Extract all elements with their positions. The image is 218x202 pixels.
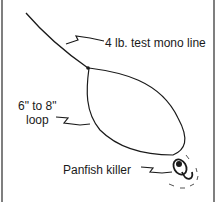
lure-pointer-arrow <box>141 167 172 173</box>
lure-icon <box>169 155 198 188</box>
loop-label: loop <box>26 113 49 127</box>
loop <box>87 68 185 155</box>
mono-line <box>26 13 88 68</box>
loop-pointer-arrow <box>56 117 90 125</box>
line-pointer-arrow <box>66 36 104 44</box>
lure-label: Panfish killer <box>63 163 131 177</box>
diagram-frame: 4 lb. test mono line 6" to 8" loop Panfi… <box>0 0 218 202</box>
line-label: 4 lb. test mono line <box>105 36 206 50</box>
loop-size-label: 6" to 8" <box>18 99 57 113</box>
